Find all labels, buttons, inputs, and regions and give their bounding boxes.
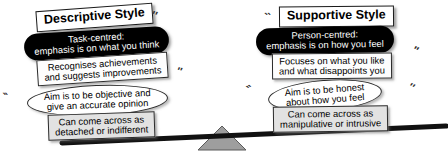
fulcrum-triangle: [198, 126, 246, 150]
left-aim-line2: give an accurate opinion: [44, 98, 151, 112]
right-style-title: Supportive Style: [279, 5, 394, 27]
right-trait-1-line2: and what disappoints you: [279, 66, 385, 77]
motion-tick-icon: ′′: [176, 66, 183, 78]
left-risk-box: Can come across as detached or indiffere…: [48, 111, 156, 141]
motion-tick-icon: ‵‵: [264, 12, 272, 24]
right-risk-line2: manipulative or intrusive: [280, 118, 381, 130]
right-risk-box: Can come across as manipulative or intru…: [273, 105, 388, 133]
right-trait-box-1: Focuses on what you like and what disapp…: [272, 52, 392, 79]
motion-tick-icon: ′′: [411, 44, 420, 56]
motion-tick-icon: ‵‵: [245, 83, 255, 95]
motion-tick-icon: ′′: [407, 81, 416, 93]
right-emphasis-pill: Person-centred: emphasis is on how you f…: [256, 26, 394, 56]
diagram-canvas: Descriptive Style Task-centred: emphasis…: [0, 0, 448, 153]
motion-tick-icon: ′′: [151, 10, 158, 22]
motion-tick-icon: ‵‵: [2, 92, 9, 104]
right-emphasis-line2: emphasis is on how you feel: [266, 39, 384, 52]
left-risk-line2: detached or indifferent: [55, 125, 148, 138]
